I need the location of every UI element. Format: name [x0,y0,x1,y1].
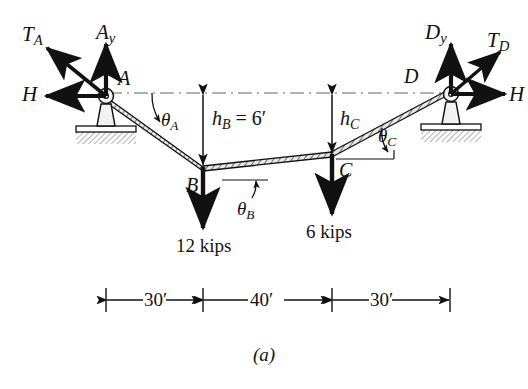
label-span-AB: 30′ [144,290,167,309]
label-load-B: 12 kips [176,236,231,255]
label-joint-D: D [404,66,418,86]
angle-marker-theta-A [152,93,160,122]
label-joint-B: B [186,175,198,195]
label-reaction-Dy: Dy [425,22,447,46]
label-height-hB: hB= 6′ [212,108,266,132]
label-reaction-H-right: H [509,84,524,105]
force-arrow-TD [451,52,500,94]
label-reaction-H-left: H [22,84,37,105]
label-height-hC: hC [340,108,359,132]
angle-marker-theta-B [222,180,268,198]
label-span-BC: 40′ [250,290,273,309]
label-theta-B: θB [237,199,254,221]
force-arrow-TA [47,48,106,96]
cable-structure-diagram [0,0,528,389]
label-joint-A: A [118,68,130,88]
figure-caption: (a) [253,345,275,364]
label-theta-A: θA [161,110,178,132]
label-tension-A: TA [22,24,43,48]
label-load-C: 6 kips [306,222,352,241]
label-theta-C: θC [378,126,396,148]
label-span-CD: 30′ [370,290,393,309]
label-reaction-Ay: Ay [96,22,115,46]
label-joint-C: C [339,160,352,180]
cable [104,90,450,171]
label-tension-D: TD [487,30,509,54]
